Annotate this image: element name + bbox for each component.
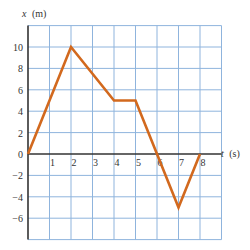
x-tick-label: 7: [179, 157, 184, 168]
x-axis-label: t (s): [221, 148, 240, 160]
y-tick-label: 2: [18, 128, 23, 139]
position-time-chart: 123456781086420−2−4−6 x (m) t (s): [0, 0, 250, 250]
x-tick-label: 4: [115, 157, 120, 168]
x-tick-label: 1: [50, 157, 55, 168]
y-tick-label: −2: [12, 170, 23, 181]
y-axis-variable: x: [21, 8, 27, 19]
y-tick-label: −6: [12, 213, 23, 224]
x-tick-label: 2: [72, 157, 77, 168]
y-tick-label: 0: [18, 149, 23, 160]
y-axis-unit: (m): [32, 8, 46, 20]
y-tick-label: 6: [18, 85, 23, 96]
y-tick-label: −4: [12, 192, 23, 203]
x-tick-label: 3: [93, 157, 98, 168]
y-tick-label: 8: [18, 63, 23, 74]
grid-lines: [28, 26, 222, 240]
x-tick-label: 8: [201, 157, 206, 168]
x-axis-variable: t: [221, 148, 224, 159]
x-tick-label: 5: [136, 157, 141, 168]
y-tick-label: 4: [18, 106, 23, 117]
y-tick-label: 10: [13, 42, 23, 53]
x-axis-unit: (s): [229, 148, 240, 160]
y-axis-label: x (m): [21, 8, 46, 20]
